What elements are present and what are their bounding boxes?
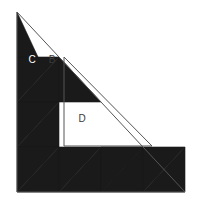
triangle-diagram: CBD (0, 0, 198, 203)
label-d: D (78, 113, 85, 124)
label-c: C (28, 54, 35, 65)
label-b: B (49, 54, 56, 65)
figure-container: CBD (0, 0, 198, 203)
